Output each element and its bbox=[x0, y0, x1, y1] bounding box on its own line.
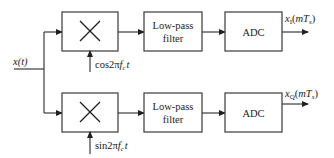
adc-q-label: ADC bbox=[242, 108, 264, 119]
input-label: x(t) bbox=[12, 56, 28, 68]
lowpass-filter-q-block bbox=[144, 93, 202, 132]
cos-oscillator-label: cos2πfct bbox=[95, 59, 131, 72]
filter-q-line1: Low-pass bbox=[153, 101, 194, 112]
lowpass-filter-i-block bbox=[144, 12, 202, 51]
filter-i-line2: filter bbox=[163, 33, 184, 44]
sin-oscillator-label: sin2πfct bbox=[95, 140, 129, 153]
output-i-label: xI(mTs) bbox=[284, 13, 316, 26]
branch-quadrature: sin2πfct Low-pass filter ADC xQ(mTs) bbox=[62, 88, 318, 154]
adc-i-label: ADC bbox=[242, 27, 264, 38]
iq-demodulator-diagram: x(t) cos2πfct Low-pass filter ADC xI(mTs… bbox=[0, 0, 334, 158]
input-signal: x(t) bbox=[12, 32, 62, 113]
branch-in-phase: cos2πfct Low-pass filter ADC xI(mTs) bbox=[62, 12, 316, 72]
filter-q-line2: filter bbox=[163, 114, 184, 125]
filter-i-line1: Low-pass bbox=[153, 20, 194, 31]
output-q-label: xQ(mTs) bbox=[284, 88, 318, 101]
